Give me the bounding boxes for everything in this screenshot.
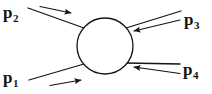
arrow-p3-incoming bbox=[134, 20, 180, 31]
momentum-label-p2-base: p bbox=[3, 3, 12, 22]
momentum-label-p3-subscript: 3 bbox=[194, 19, 200, 31]
scattering-diagram: p2 p1 p3 p4 bbox=[0, 0, 212, 94]
momentum-label-p1-base: p bbox=[3, 68, 12, 87]
momentum-label-p2: p2 bbox=[3, 4, 18, 24]
momentum-label-p1-subscript: 1 bbox=[13, 77, 19, 89]
arrow-p1-incoming bbox=[50, 80, 81, 86]
arrow-p4-incoming bbox=[134, 67, 180, 74]
momentum-label-p4-base: p bbox=[183, 60, 192, 79]
arrow-p2-incoming bbox=[40, 7, 71, 14]
momentum-label-p3: p3 bbox=[184, 11, 199, 31]
leg-line-p4 bbox=[126, 63, 180, 64]
diagram-canvas bbox=[0, 0, 212, 94]
momentum-label-p4: p4 bbox=[183, 61, 198, 81]
leg-line-p1 bbox=[29, 64, 84, 80]
momentum-label-p2-subscript: 2 bbox=[13, 12, 19, 24]
leg-line-p3 bbox=[126, 11, 181, 28]
momentum-label-p3-base: p bbox=[184, 10, 193, 29]
interaction-blob bbox=[77, 18, 133, 74]
leg-line-p2 bbox=[28, 8, 84, 28]
momentum-label-p1: p1 bbox=[3, 69, 18, 89]
momentum-label-p4-subscript: 4 bbox=[193, 69, 199, 81]
